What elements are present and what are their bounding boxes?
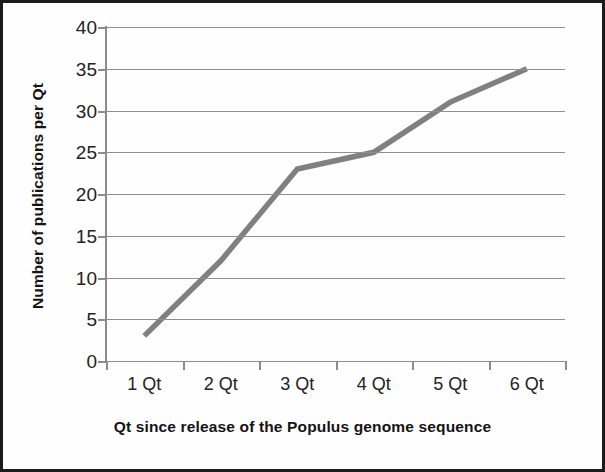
y-tick-label-5: 5 [61, 310, 97, 329]
x-tick-mark-4 [336, 361, 338, 370]
x-tick-mark-5 [412, 361, 414, 370]
y-tick-mark-15 [98, 236, 107, 238]
x-tick-mark-1 [106, 361, 108, 370]
gridline-10 [106, 278, 565, 279]
y-tick-mark-40 [98, 27, 107, 29]
y-tick-label-0: 0 [61, 352, 97, 371]
gridline-35 [106, 69, 565, 70]
y-tick-label-30: 30 [61, 101, 97, 120]
y-tick-label-35: 35 [61, 59, 97, 78]
x-tick-label-6: 6 Qt [482, 374, 572, 395]
chart-plot-frame: Number of publications per Qt 4035302520… [3, 3, 602, 469]
gridline-40 [106, 27, 565, 28]
x-tick-mark-2 [183, 361, 185, 370]
plot-area [106, 27, 565, 361]
gridline-5 [106, 319, 565, 320]
y-tick-mark-10 [98, 278, 107, 280]
y-axis-title: Number of publications per Qt [25, 31, 51, 361]
y-axis-tick-labels: 4035302520151050 [61, 17, 97, 365]
y-tick-label-10: 10 [61, 268, 97, 287]
gridline-25 [106, 152, 565, 153]
y-tick-mark-35 [98, 69, 107, 71]
y-tick-label-15: 15 [61, 226, 97, 245]
x-tick-mark-6 [489, 361, 491, 370]
y-tick-label-20: 20 [61, 185, 97, 204]
gridline-20 [106, 194, 565, 195]
chart-figure: Number of publications per Qt 4035302520… [0, 0, 605, 472]
y-tick-label-40: 40 [61, 18, 97, 37]
y-tick-mark-5 [98, 319, 107, 321]
y-tick-mark-25 [98, 152, 107, 154]
x-axis-title: Qt since release of the Populus genome s… [3, 418, 602, 436]
y-tick-mark-30 [98, 111, 107, 113]
y-tick-label-25: 25 [61, 143, 97, 162]
x-tick-mark-3 [259, 361, 261, 370]
y-tick-mark-20 [98, 194, 107, 196]
gridline-15 [106, 236, 565, 237]
x-tick-mark-end [565, 361, 567, 370]
gridline-30 [106, 111, 565, 112]
series-polyline [144, 69, 527, 336]
